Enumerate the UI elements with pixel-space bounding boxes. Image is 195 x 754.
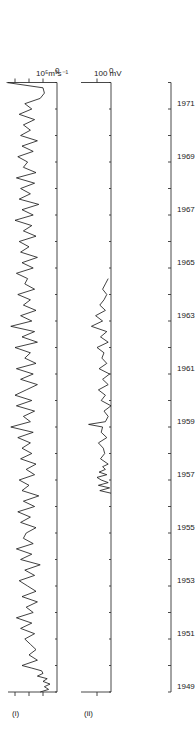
panel-i-unit-label: 10⁵m³s⁻¹ — [36, 69, 69, 78]
time-axis-label: 1967 — [177, 205, 195, 214]
panel-i-zero-label: 0 — [55, 66, 60, 75]
time-axis-label: 1969 — [177, 152, 195, 161]
time-axis-label: 1957 — [177, 470, 195, 479]
time-axis-label: 1955 — [177, 523, 195, 532]
time-axis-label: 1951 — [177, 629, 195, 638]
panel-ii-trace — [89, 279, 111, 494]
time-axis: 1949195119531955195719591961196319651967… — [168, 83, 195, 693]
panel-ii — [81, 79, 111, 697]
panel-ii-label: (ii) — [84, 709, 93, 718]
time-axis-label: 1959 — [177, 417, 195, 426]
panel-i-label: (i) — [12, 709, 19, 718]
panel-i-trace — [7, 83, 50, 693]
time-axis-label: 1953 — [177, 576, 195, 585]
time-series-figure: 1949195119531955195719591961196319651967… — [0, 0, 195, 754]
rotated-figure: 1949195119531955195719591961196319651967… — [0, 0, 195, 754]
time-axis-label: 1961 — [177, 364, 195, 373]
time-axis-label: 1965 — [177, 258, 195, 267]
time-axis-label: 1963 — [177, 311, 195, 320]
panel-i — [7, 79, 57, 697]
panel-ii-zero-label: 0 — [109, 66, 114, 75]
time-axis-label: 1949 — [177, 682, 195, 691]
time-axis-label: 1971 — [177, 99, 195, 108]
